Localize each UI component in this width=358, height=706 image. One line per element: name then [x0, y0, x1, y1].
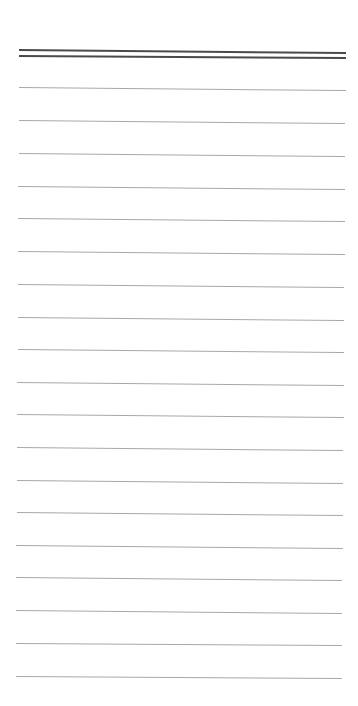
ruled-line [19, 153, 345, 157]
ruled-line [19, 87, 346, 91]
ruled-line [18, 349, 344, 353]
ruled-line [18, 251, 345, 255]
ruled-line [17, 414, 344, 418]
ruled-line [16, 610, 342, 614]
ruled-line [17, 447, 343, 451]
ruled-line [16, 577, 342, 581]
ruled-line [19, 120, 345, 124]
lined-paper [0, 0, 358, 706]
header-rule-line [19, 49, 346, 53]
ruled-line [18, 284, 344, 288]
ruled-line [17, 480, 343, 484]
ruled-line [17, 512, 343, 516]
ruled-line [16, 643, 342, 646]
header-rule-line [19, 55, 346, 58]
ruled-line [18, 218, 345, 222]
ruled-line [18, 186, 345, 190]
ruled-line [16, 676, 342, 679]
ruled-line [18, 317, 344, 321]
ruled-line [17, 382, 344, 386]
ruled-line [16, 545, 343, 549]
